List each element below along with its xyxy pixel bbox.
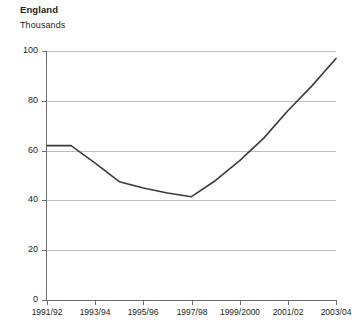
series-polyline [47, 58, 336, 196]
data-series-line [0, 0, 357, 334]
chart-container: England Thousands 020406080100 1991/9219… [0, 0, 357, 334]
